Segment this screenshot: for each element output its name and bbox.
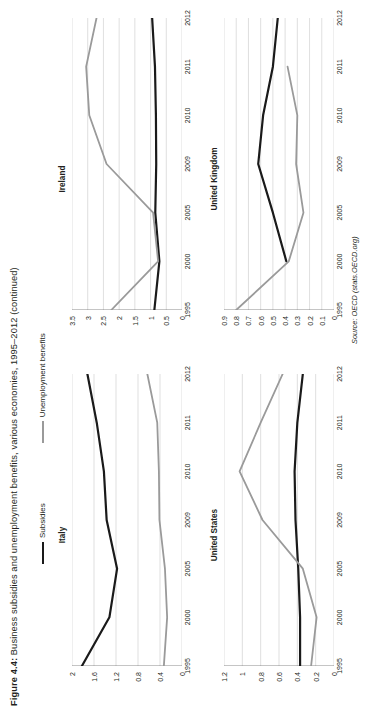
y-tick-label: 1.5 [131, 316, 138, 326]
x-tick-label: 2005 [336, 205, 343, 221]
x-tick-label: 2009 [184, 512, 191, 528]
plot-area-ireland [72, 18, 182, 310]
panel-grid: Italy 00.40.81.21.62 1995200020052009201… [58, 0, 358, 714]
x-tick-label: 2011 [184, 59, 191, 74]
x-tick-label: 2009 [184, 156, 191, 172]
plot-lines-united-kingdom [224, 18, 334, 310]
chart-legend: Subsidies Unemployment benefits [38, 333, 47, 564]
x-tick-label: 2009 [336, 512, 343, 528]
panel-title-ireland: Ireland [58, 14, 67, 344]
y-tick-label: 0.6 [276, 672, 283, 682]
y-tick-label: 0.4 [282, 316, 289, 326]
x-tick-label: 2005 [184, 205, 191, 221]
x-tick-label: 1995 [336, 658, 343, 674]
x-tick-label: 2000 [336, 610, 343, 626]
x-tick-label: 2011 [336, 59, 343, 74]
panel-title-italy: Italy [58, 370, 67, 700]
panel-title-united-kingdom: United Kingdom [210, 14, 219, 344]
x-tick-label: 2010 [336, 108, 343, 124]
y-tick-label: 3.5 [69, 316, 76, 326]
x-tick-label: 1995 [184, 658, 191, 674]
figure-number: Figure 4.4: [9, 658, 19, 706]
figure-canvas: Figure 4.4: Business subsidies and unemp… [0, 0, 372, 714]
y-tick-label: 2.5 [100, 316, 107, 326]
x-tick-label: 2012 [336, 366, 343, 382]
y-tick-label: 0.9 [221, 316, 228, 326]
series-line [236, 67, 303, 310]
y-axis-labels-italy: 00.40.81.21.62 [72, 668, 182, 700]
panel-united-states: United States 00.20.40.60.811.2 19952000… [210, 370, 356, 700]
y-tick-label: 2 [116, 316, 123, 320]
legend-item-unemployment: Unemployment benefits [38, 333, 47, 443]
y-tick-label: 0.4 [157, 672, 164, 682]
x-tick-label: 1995 [184, 302, 191, 318]
y-tick-label: 0.1 [318, 316, 325, 326]
y-tick-label: 1 [239, 672, 246, 676]
y-axis-labels-ireland: 00.511.522.533.5 [72, 312, 182, 344]
y-tick-label: 0.2 [306, 316, 313, 326]
y-tick-label: 0.3 [294, 316, 301, 326]
series-line [82, 374, 117, 666]
legend-item-subsidies: Subsidies [38, 503, 47, 564]
panel-united-kingdom: United Kingdom 00.10.20.30.40.50.60.70.8… [210, 14, 356, 344]
y-tick-label: 2 [69, 672, 76, 676]
x-tick-label: 2010 [184, 464, 191, 480]
x-axis-labels-united-states: 1995200020052009201020112012 [336, 374, 354, 666]
x-tick-label: 2012 [184, 10, 191, 26]
y-tick-label: 1.6 [91, 672, 98, 682]
panel-ireland: Ireland 00.511.522.533.5 199520002005200… [58, 14, 204, 344]
series-line [295, 374, 303, 666]
plot-area-united-kingdom [224, 18, 334, 310]
x-axis-labels-ireland: 1995200020052009201020112012 [184, 18, 202, 310]
plot-lines-italy [72, 374, 182, 666]
y-tick-label: 1 [147, 316, 154, 320]
figure-page: Figure 4.4: Business subsidies and unemp… [0, 0, 372, 714]
series-line [258, 18, 286, 261]
y-tick-label: 0.5 [163, 316, 170, 326]
y-tick-label: 0.5 [269, 316, 276, 326]
legend-label-unemployment: Unemployment benefits [38, 333, 47, 417]
panel-title-united-states: United States [210, 370, 219, 700]
x-tick-label: 2010 [336, 464, 343, 480]
x-tick-label: 2000 [184, 610, 191, 626]
plot-area-united-states [224, 374, 334, 666]
y-tick-label: 0.6 [257, 316, 264, 326]
x-tick-label: 2011 [336, 415, 343, 430]
legend-line-icon-unemployment [42, 421, 44, 443]
x-tick-label: 2005 [184, 561, 191, 577]
y-tick-label: 0.8 [233, 316, 240, 326]
x-tick-label: 2011 [184, 415, 191, 430]
y-tick-label: 3 [84, 316, 91, 320]
series-line [240, 374, 317, 666]
y-tick-label: 0.7 [245, 316, 252, 326]
y-axis-labels-united-kingdom: 00.10.20.30.40.50.60.70.80.9 [224, 312, 334, 344]
plot-lines-united-states [224, 374, 334, 666]
x-axis-labels-italy: 1995200020052009201020112012 [184, 374, 202, 666]
x-tick-label: 2009 [336, 156, 343, 172]
y-tick-label: 0.8 [135, 672, 142, 682]
plot-area-italy [72, 374, 182, 666]
y-axis-labels-united-states: 00.20.40.60.811.2 [224, 668, 334, 700]
series-line [86, 18, 158, 310]
y-tick-label: 1.2 [221, 672, 228, 682]
x-tick-label: 2012 [184, 366, 191, 382]
legend-line-icon-subsidies [42, 542, 44, 564]
y-tick-label: 0.4 [294, 672, 301, 682]
panel-italy: Italy 00.40.81.21.62 1995200020052009201… [58, 370, 204, 700]
x-tick-label: 2010 [184, 108, 191, 124]
legend-label-subsidies: Subsidies [38, 503, 47, 538]
source-note: Source: OECD (stats.OECD.org) [350, 236, 359, 344]
figure-caption: Business subsidies and unemployment bene… [9, 267, 19, 655]
plot-lines-ireland [72, 18, 182, 310]
x-tick-label: 2000 [184, 254, 191, 270]
x-tick-label: 2005 [336, 561, 343, 577]
series-line [147, 374, 167, 666]
x-tick-label: 2012 [336, 10, 343, 26]
x-tick-label: 1995 [336, 302, 343, 318]
y-tick-label: 1.2 [113, 672, 120, 682]
y-tick-label: 0.2 [312, 672, 319, 682]
figure-title: Figure 4.4: Business subsidies and unemp… [8, 8, 20, 706]
x-tick-label: 2000 [336, 254, 343, 270]
y-tick-label: 0.8 [257, 672, 264, 682]
